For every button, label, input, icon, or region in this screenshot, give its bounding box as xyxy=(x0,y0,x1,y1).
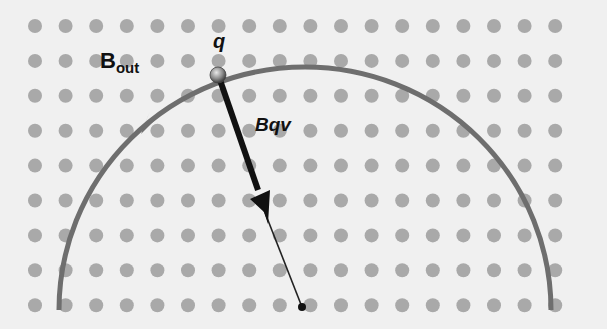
field-dot xyxy=(28,124,42,138)
field-dot xyxy=(59,159,73,173)
field-dot xyxy=(456,263,470,277)
field-label-sub: out xyxy=(116,59,139,76)
field-dot xyxy=(487,194,501,208)
field-dot xyxy=(518,263,532,277)
charge-q xyxy=(210,67,226,83)
field-dot xyxy=(365,263,379,277)
field-dot xyxy=(395,263,409,277)
field-dot xyxy=(181,263,195,277)
field-dot xyxy=(59,19,73,33)
field-dot xyxy=(395,298,409,312)
field-dot xyxy=(150,124,164,138)
field-dot xyxy=(518,159,532,173)
field-dot xyxy=(181,19,195,33)
field-dot xyxy=(365,228,379,242)
field-dot xyxy=(456,298,470,312)
field-dot xyxy=(487,228,501,242)
field-dot xyxy=(181,54,195,68)
field-dot xyxy=(273,263,287,277)
field-dot xyxy=(89,194,103,208)
field-dot xyxy=(212,124,226,138)
field-dot xyxy=(181,298,195,312)
field-dot xyxy=(150,159,164,173)
field-dot xyxy=(518,89,532,103)
field-dot xyxy=(426,263,440,277)
field-dot xyxy=(548,228,562,242)
field-dot xyxy=(365,124,379,138)
field-dot xyxy=(28,228,42,242)
field-dot xyxy=(89,228,103,242)
field-dot xyxy=(273,19,287,33)
field-dot xyxy=(59,54,73,68)
field-dot xyxy=(487,298,501,312)
field-dot xyxy=(120,19,134,33)
field-dot xyxy=(242,89,256,103)
field-dot xyxy=(150,228,164,242)
field-dot xyxy=(273,194,287,208)
field-dot xyxy=(395,228,409,242)
field-dot xyxy=(242,228,256,242)
field-dot xyxy=(303,159,317,173)
field-dot xyxy=(518,124,532,138)
field-dot xyxy=(487,124,501,138)
field-dot xyxy=(548,19,562,33)
field-dot xyxy=(548,124,562,138)
field-dot xyxy=(548,194,562,208)
field-dot xyxy=(150,263,164,277)
field-dot xyxy=(120,159,134,173)
field-dot xyxy=(334,124,348,138)
field-dot xyxy=(365,194,379,208)
field-dot xyxy=(273,89,287,103)
field-dot xyxy=(456,54,470,68)
field-dot xyxy=(487,89,501,103)
field-dot xyxy=(303,89,317,103)
field-dot xyxy=(59,124,73,138)
field-dot xyxy=(334,89,348,103)
field-dot xyxy=(334,263,348,277)
field-dot xyxy=(303,228,317,242)
field-dot xyxy=(28,298,42,312)
field-dot xyxy=(487,54,501,68)
field-dot xyxy=(150,89,164,103)
field-dot xyxy=(89,298,103,312)
charge-label: q xyxy=(213,30,225,53)
field-dot xyxy=(150,194,164,208)
field-dot xyxy=(365,89,379,103)
field-dot xyxy=(120,298,134,312)
field-dot xyxy=(120,89,134,103)
field-dot xyxy=(59,89,73,103)
field-dot xyxy=(426,298,440,312)
field-dot xyxy=(242,54,256,68)
field-dot xyxy=(395,194,409,208)
field-dot xyxy=(120,228,134,242)
field-dot xyxy=(28,159,42,173)
field-dot xyxy=(89,124,103,138)
field-dot xyxy=(28,194,42,208)
field-dot xyxy=(395,54,409,68)
field-dot xyxy=(334,228,348,242)
field-dot xyxy=(487,19,501,33)
field-dot xyxy=(120,263,134,277)
field-dot xyxy=(150,19,164,33)
field-dot xyxy=(334,54,348,68)
field-dot xyxy=(548,159,562,173)
field-dot xyxy=(487,263,501,277)
field-dot xyxy=(212,228,226,242)
field-dot xyxy=(426,159,440,173)
field-label-main: B xyxy=(100,48,116,73)
field-dot xyxy=(120,194,134,208)
field-dot xyxy=(334,19,348,33)
field-dot xyxy=(212,159,226,173)
field-dot xyxy=(28,19,42,33)
field-dot xyxy=(303,124,317,138)
field-dot xyxy=(181,124,195,138)
field-dot xyxy=(89,89,103,103)
field-dot xyxy=(28,263,42,277)
field-dot xyxy=(365,159,379,173)
field-dot xyxy=(334,298,348,312)
field-dot xyxy=(303,19,317,33)
field-dot xyxy=(426,19,440,33)
field-dot xyxy=(456,19,470,33)
field-dot xyxy=(518,19,532,33)
field-dot xyxy=(365,19,379,33)
